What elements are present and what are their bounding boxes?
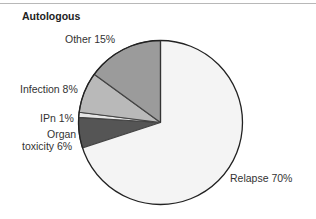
label-other: Other 15% bbox=[65, 33, 115, 45]
label-relapse: Relapse 70% bbox=[230, 172, 292, 184]
pie-chart bbox=[0, 0, 316, 219]
label-infection: Infection 8% bbox=[20, 83, 78, 95]
label-ipn: IPn 1% bbox=[40, 112, 74, 124]
label-organ-toxicity-line2: toxicity 6% bbox=[22, 140, 72, 152]
label-organ-toxicity-line1: Organ bbox=[47, 128, 76, 140]
